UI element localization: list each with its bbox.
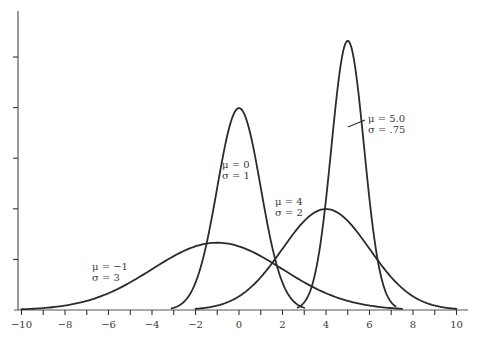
x-tick-label: 2 xyxy=(279,319,285,330)
x-axis: −10−8−6−4−20246810 xyxy=(11,310,468,330)
x-tick-label: 0 xyxy=(236,319,242,330)
annotation-sigma: σ = 1 xyxy=(222,170,250,181)
normal-distributions-chart: −10−8−6−4−20246810 μ = −1σ = 3μ = 0σ = 1… xyxy=(0,0,478,338)
density-curve-3 xyxy=(298,41,396,308)
x-tick-label: 8 xyxy=(410,319,416,330)
x-tick-label: 4 xyxy=(323,319,329,330)
annotation-mu: μ = 4 xyxy=(275,196,303,207)
x-tick-label: −8 xyxy=(58,319,73,330)
annotation-mu: μ = 0 xyxy=(222,159,250,170)
x-tick-label: 10 xyxy=(450,319,463,330)
y-axis xyxy=(13,11,18,310)
annotation-mu: μ = −1 xyxy=(92,261,128,272)
annotation-sigma: σ = 3 xyxy=(92,272,120,283)
x-tick-label: 6 xyxy=(366,319,372,330)
annotation-mu: μ = 5.0 xyxy=(368,113,405,124)
x-tick-label: −6 xyxy=(101,319,116,330)
x-tick-label: −4 xyxy=(145,319,160,330)
x-tick-label: −10 xyxy=(11,319,32,330)
density-curve-0 xyxy=(22,243,403,310)
curve-annotations: μ = −1σ = 3μ = 0σ = 1μ = 4σ = 2μ = 5.0σ … xyxy=(92,113,405,283)
x-tick-label: −2 xyxy=(188,319,203,330)
annotation-sigma: σ = .75 xyxy=(368,124,405,135)
annotation-sigma: σ = 2 xyxy=(275,207,303,218)
